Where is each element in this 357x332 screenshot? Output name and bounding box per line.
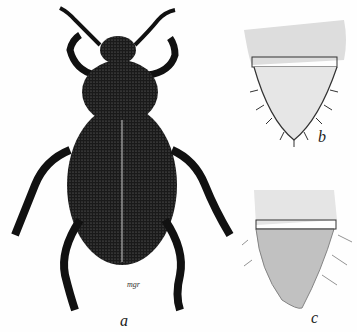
abdomen-detail-figure-c — [242, 190, 357, 325]
figure-label-c: c — [311, 309, 318, 327]
artist-signature: mgr — [127, 280, 140, 289]
illustration-plate: b c a mgr — [0, 0, 357, 332]
figure-label-b: b — [318, 128, 326, 146]
figure-label-a: a — [120, 312, 128, 330]
abdomen-detail-figure-b — [244, 0, 354, 150]
beetle-figure-a — [0, 0, 250, 332]
